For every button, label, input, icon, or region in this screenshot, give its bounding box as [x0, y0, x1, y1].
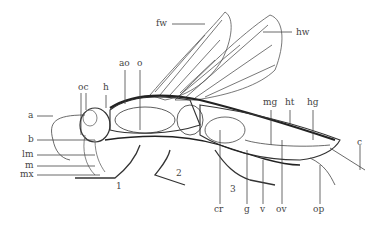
- label-midgut: mg: [263, 98, 277, 107]
- label-hindwing: hw: [296, 28, 310, 37]
- label-ovipositor: op: [313, 205, 324, 214]
- label-ventral-nerve: v: [260, 205, 265, 214]
- label-aorta: ao: [119, 59, 130, 68]
- label-ovary: ov: [276, 205, 287, 214]
- insect-anatomy-diagram: fw hw ao o oc h a b lm m mx 1 2 3 mg ht …: [0, 0, 389, 227]
- label-oesophagus: o: [137, 59, 142, 68]
- label-cercus: c: [357, 138, 362, 147]
- label-leg-3: 3: [230, 185, 236, 194]
- label-labrum: lm: [22, 150, 33, 159]
- label-antenna: a: [28, 111, 33, 120]
- label-ganglion: g: [244, 205, 250, 214]
- label-crop: cr: [214, 205, 223, 214]
- label-ocellus: oc: [78, 83, 88, 92]
- label-forewing: fw: [156, 19, 167, 28]
- label-brain: b: [28, 135, 34, 144]
- label-head: h: [103, 83, 109, 92]
- label-maxilla: mx: [20, 170, 34, 179]
- label-leg-1: 1: [116, 182, 122, 191]
- label-leg-2: 2: [176, 169, 182, 178]
- label-heart: ht: [285, 98, 294, 107]
- label-hindgut: hg: [307, 98, 319, 107]
- insect-drawing: [0, 0, 389, 227]
